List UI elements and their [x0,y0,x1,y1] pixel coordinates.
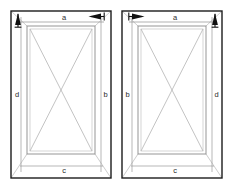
left-panel: d b a c [11,11,111,178]
left-panel-dim-c: c [20,166,103,175]
right-arrow-head [132,13,145,19]
dim-label-a: a [173,13,178,22]
right-panel-dim-c: c [131,166,214,175]
dim-label-b: b [103,90,107,99]
right-panel-dim-d: d [212,17,219,172]
dim-label-d: d [15,90,19,99]
dim-label-b: b [125,90,129,99]
left-panel-dim-a: a [18,13,104,22]
left-panel-dim-d: d [15,17,21,172]
dim-label-d: d [214,90,218,99]
right-panel: b d a c [122,11,222,178]
dim-label-c: c [62,166,66,175]
left-arrow-head [89,13,102,19]
drawing-canvas: d b a c [0,0,234,187]
dim-label-c: c [173,166,177,175]
right-panel-dim-a: a [129,13,215,22]
window-dimension-drawing: d b a c [0,0,234,187]
left-panel-dim-b: b [101,17,108,172]
right-panel-dim-b: b [125,17,132,172]
dim-label-a: a [62,13,67,22]
